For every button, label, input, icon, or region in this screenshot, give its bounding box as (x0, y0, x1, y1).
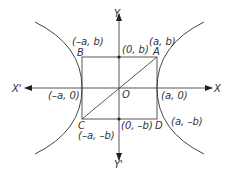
label-0-neg-b: (0, –b) (121, 120, 153, 131)
label-d: D (155, 120, 163, 131)
label-a: A (152, 46, 160, 57)
hyperbola-diagram: Y Y' X X' O (a, b) A (–a, b) B C (–a, –b… (0, 0, 226, 172)
label-x-prime: X' (11, 83, 22, 94)
label-b-coord: (–a, b) (72, 36, 104, 47)
label-b: B (77, 47, 84, 58)
label-y: Y (114, 8, 121, 19)
label-y-prime: Y' (114, 159, 123, 170)
point-0-b (117, 55, 120, 58)
label-a-0: (a, 0) (161, 90, 188, 101)
label-c-coord: (–a, –b) (78, 130, 115, 141)
label-x: X (213, 83, 222, 94)
label-0-b: (0, b) (122, 44, 149, 55)
label-neg-a-0: (–a, 0) (48, 90, 80, 101)
label-d-coord: (a, –b) (171, 116, 203, 127)
label-origin: O (122, 89, 130, 100)
